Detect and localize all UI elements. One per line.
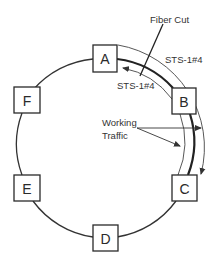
sts-inner-label: STS-1#4 bbox=[117, 80, 155, 91]
node-c-label: C bbox=[179, 181, 189, 197]
inner-fiber-b-c bbox=[178, 114, 185, 175]
ring-diagram: A B C D E F Fiber Cut STS-1#4 STS-1#4 Wo… bbox=[0, 0, 215, 263]
node-a-label: A bbox=[100, 51, 110, 67]
working-arrow-inner bbox=[137, 128, 180, 146]
link-e-d bbox=[33, 201, 93, 237]
sts-outer-label: STS-1#4 bbox=[165, 54, 203, 65]
node-e-label: E bbox=[22, 181, 31, 197]
link-a-f bbox=[33, 59, 93, 90]
working-traffic-label-line1: Working bbox=[102, 117, 137, 128]
node-a: A bbox=[93, 45, 117, 72]
link-d-c bbox=[117, 201, 176, 237]
node-f: F bbox=[14, 87, 40, 113]
node-e: E bbox=[14, 175, 40, 201]
node-c: C bbox=[172, 175, 197, 201]
node-b: B bbox=[172, 88, 196, 114]
working-traffic-label-line2: Traffic bbox=[102, 130, 128, 141]
node-d-label: D bbox=[100, 231, 110, 247]
node-f-label: F bbox=[23, 93, 32, 109]
node-b-label: B bbox=[179, 94, 188, 110]
fiber-cut-line bbox=[140, 24, 163, 76]
working-fiber-b-c bbox=[188, 114, 194, 175]
node-d: D bbox=[93, 225, 118, 251]
fiber-cut-label: Fiber Cut bbox=[150, 14, 189, 25]
link-f-e bbox=[16, 113, 22, 175]
